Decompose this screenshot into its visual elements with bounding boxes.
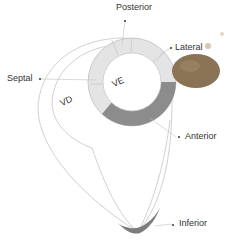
lv-wall-curve bbox=[92, 120, 170, 232]
label-inferior: Inferior bbox=[179, 218, 207, 228]
label-anterior: Anterior bbox=[185, 131, 217, 141]
label-posterior: Posterior bbox=[116, 2, 152, 12]
label-septal: Septal bbox=[7, 73, 33, 83]
tissue-blob bbox=[172, 54, 220, 88]
heart-diagram bbox=[0, 0, 231, 244]
label-lateral: Lateral bbox=[175, 42, 203, 52]
apex-inferior-segment bbox=[118, 208, 160, 234]
